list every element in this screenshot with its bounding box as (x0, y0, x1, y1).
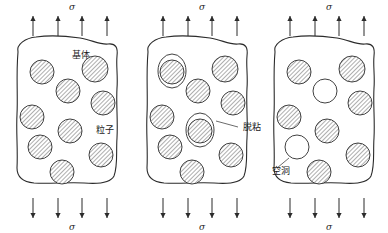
particle-circle (20, 105, 44, 129)
bottom-stress-arrow-3-head (361, 213, 366, 218)
particle-circle (50, 160, 74, 184)
void-circle (313, 79, 337, 103)
top-stress-arrow-2-head (209, 16, 214, 21)
top-stress-arrow-2-head (79, 16, 84, 21)
particle-circle (212, 56, 238, 82)
particle-circle (339, 56, 365, 82)
composite-damage-diagram: 基体粒子σσ脱粘σσ空洞σσ (0, 0, 388, 233)
top-stress-arrow-0-head (287, 16, 292, 21)
bottom-stress-arrow-1-head (55, 213, 60, 218)
bottom-stress-arrow-1-head (185, 213, 190, 218)
bottom-stress-arrow-2-head (336, 213, 341, 218)
particle-circle (56, 79, 80, 103)
bottom-stress-arrow-0-head (30, 213, 35, 218)
bottom-stress-arrow-1-head (312, 213, 317, 218)
top-stress-arrow-0-head (30, 16, 35, 21)
bottom-stress-arrow-0-head (287, 213, 292, 218)
particle-circle (186, 79, 210, 103)
particle-circle (30, 60, 54, 84)
particle-circle (219, 143, 243, 167)
particle-circle (315, 119, 339, 143)
particle-circle (28, 135, 52, 159)
particle-circle (307, 160, 331, 184)
debonding-label: 脱粘 (243, 121, 261, 132)
bottom-stress-symbol: σ (69, 222, 76, 232)
particle-circle (160, 60, 184, 84)
bottom-stress-symbol: σ (326, 222, 333, 232)
bottom-stress-arrow-0-head (160, 213, 165, 218)
particle-circle (150, 105, 174, 129)
panel-debonding: 脱粘σσ (147, 2, 261, 232)
top-stress-arrow-0-head (160, 16, 165, 21)
matrix-label: 基体 (72, 49, 90, 60)
bottom-stress-arrow-3-head (234, 213, 239, 218)
top-stress-arrow-3-head (104, 16, 109, 21)
top-stress-arrow-1-head (185, 16, 190, 21)
void-circle (285, 135, 309, 159)
particle-circle (180, 160, 204, 184)
particle-circle (277, 105, 301, 129)
top-stress-symbol: σ (326, 2, 333, 12)
top-stress-symbol: σ (69, 2, 76, 12)
particle-circle (158, 135, 182, 159)
bottom-stress-arrow-2-head (209, 213, 214, 218)
bottom-stress-symbol: σ (199, 222, 206, 232)
top-stress-arrow-3-head (234, 16, 239, 21)
bottom-stress-arrow-2-head (79, 213, 84, 218)
panel-voids: 空洞σσ (272, 2, 374, 232)
top-stress-arrow-3-head (361, 16, 366, 21)
void-label: 空洞 (272, 165, 290, 176)
panels-container: 基体粒子σσ脱粘σσ空洞σσ (17, 2, 375, 232)
particle-circle (58, 119, 82, 143)
top-stress-symbol: σ (199, 2, 206, 12)
particle-circle (221, 91, 245, 115)
panel-intact: 基体粒子σσ (17, 2, 118, 232)
top-stress-arrow-1-head (55, 16, 60, 21)
particle-circle (287, 60, 311, 84)
particle-circle (346, 143, 370, 167)
bottom-stress-arrow-3-head (104, 213, 109, 218)
top-stress-arrow-1-head (312, 16, 317, 21)
particle-circle (91, 91, 115, 115)
top-stress-arrow-2-head (336, 16, 341, 21)
particle-circle (348, 91, 372, 115)
particle-circle (89, 143, 113, 167)
particle-circle (188, 119, 212, 143)
particle-label: 粒子 (96, 124, 114, 135)
